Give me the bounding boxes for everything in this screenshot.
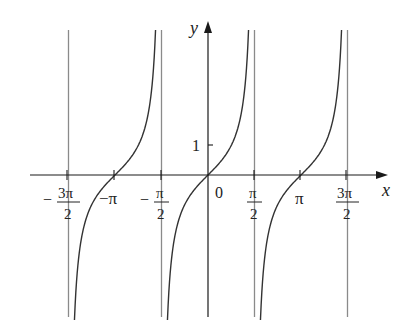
svg-text:2: 2 xyxy=(157,206,165,222)
svg-text:3π: 3π xyxy=(337,185,353,201)
svg-text:2: 2 xyxy=(343,206,351,222)
svg-text:π: π xyxy=(249,185,257,201)
svg-text:π: π xyxy=(156,185,164,201)
x-tick-label-neg-pi-over-2: − π 2 xyxy=(140,185,169,222)
x-axis-arrow-icon xyxy=(376,171,388,179)
svg-text:−: − xyxy=(43,191,52,208)
svg-text:2: 2 xyxy=(250,206,258,222)
x-tick-label-neg-3pi-over-2: − 3π 2 xyxy=(43,185,80,222)
tangent-graph: y x 1 0 − 3π 2 −π − π 2 π 2 π 3π 2 xyxy=(0,0,417,332)
svg-text:2: 2 xyxy=(64,206,72,222)
x-axis-label: x xyxy=(381,180,390,200)
svg-text:−: − xyxy=(140,191,149,208)
x-tick-label-pi: π xyxy=(295,189,304,208)
y-tick-label-1: 1 xyxy=(192,137,200,154)
y-axis-arrow-icon xyxy=(204,21,212,33)
origin-label: 0 xyxy=(215,184,223,201)
svg-text:3π: 3π xyxy=(58,185,74,201)
y-axis-label: y xyxy=(188,18,198,38)
x-tick-label-neg-pi: −π xyxy=(99,189,118,208)
